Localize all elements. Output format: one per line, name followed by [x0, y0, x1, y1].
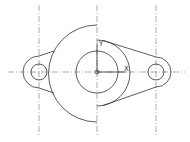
right-arc — [97, 40, 130, 106]
right-tangent-top — [103, 41, 156, 58]
large-arc — [48, 25, 97, 122]
technical-drawing: Y X — [0, 0, 190, 142]
right-tangent-bottom — [103, 87, 156, 106]
y-axis-label: Y — [98, 40, 104, 48]
x-axis-label: X — [124, 65, 129, 73]
